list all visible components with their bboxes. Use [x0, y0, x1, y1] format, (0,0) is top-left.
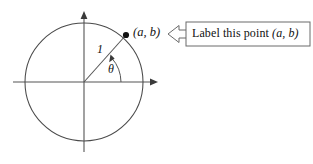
figure-canvas: (a, b) 1 θ Label this point (a, b) — [0, 0, 313, 164]
callout-text-plain: Label this point — [192, 26, 272, 40]
callout-text-math: (a, b) — [272, 26, 299, 40]
radius-segment — [84, 35, 126, 82]
y-axis-arrowhead-icon — [81, 11, 88, 19]
theta-angle-label: θ — [108, 63, 114, 75]
x-axis-arrowhead-icon — [150, 79, 158, 86]
callout-arrow-icon — [168, 26, 187, 43]
point-marker — [123, 32, 129, 38]
radius-length-label: 1 — [97, 43, 103, 55]
callout-text: Label this point (a, b) — [192, 27, 299, 39]
point-coordinate-label: (a, b) — [133, 26, 160, 39]
